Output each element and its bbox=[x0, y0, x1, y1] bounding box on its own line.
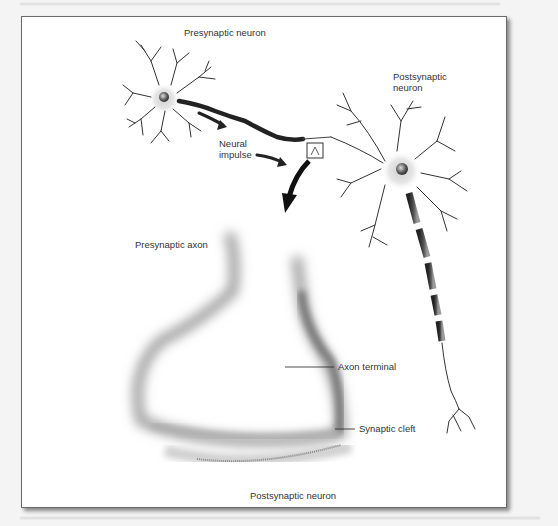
label-synaptic-cleft: Synaptic cleft bbox=[359, 423, 416, 434]
label-postsynaptic-neuron-bottom: Postsynaptic neuron bbox=[250, 490, 336, 501]
neuron-synapse-illustration bbox=[22, 17, 506, 507]
label-neural-impulse-line2: impulse bbox=[219, 149, 252, 160]
label-presynaptic-axon: Presynaptic axon bbox=[135, 239, 208, 250]
axon-terminal-shape bbox=[138, 233, 341, 441]
postsynaptic-membrane bbox=[165, 445, 351, 461]
presynaptic-neuron-icon bbox=[123, 41, 331, 143]
label-presynaptic-neuron: Presynaptic neuron bbox=[184, 27, 266, 38]
figure-frame: Presynaptic neuron Postsynaptic neuron N… bbox=[21, 16, 507, 508]
synapse-zoom-box bbox=[307, 143, 323, 158]
zoom-arrow-icon bbox=[282, 161, 309, 213]
label-postsynaptic-neuron-top-line2: neuron bbox=[393, 82, 423, 93]
label-neural-impulse-line1: Neural bbox=[219, 138, 247, 149]
postsynaptic-neuron-icon bbox=[331, 93, 475, 433]
label-postsynaptic-neuron-top-line1: Postsynaptic bbox=[393, 71, 447, 82]
label-axon-terminal: Axon terminal bbox=[338, 361, 396, 372]
